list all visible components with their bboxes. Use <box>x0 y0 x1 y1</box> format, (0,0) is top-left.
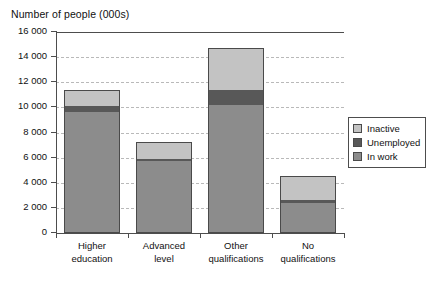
y-tick-label: 10 000 <box>18 100 47 112</box>
x-axis-label-line: Advanced <box>128 240 200 253</box>
y-tick-mark <box>51 81 56 82</box>
x-axis-label-line: qualifications <box>272 253 344 266</box>
bar-stack <box>280 32 336 233</box>
bar-stack <box>208 32 264 233</box>
stacked-bar-chart: Number of people (000s) 02 0004 0006 000… <box>0 0 438 293</box>
x-tick-mark <box>344 233 345 238</box>
legend-item[interactable]: Inactive <box>353 122 420 135</box>
bar-segment <box>280 176 336 199</box>
bar-segment <box>208 90 264 104</box>
bar-segment <box>280 200 336 204</box>
y-tick-mark <box>51 106 56 107</box>
y-tick-mark <box>51 56 56 57</box>
bar-segment <box>208 105 264 233</box>
y-axis-line <box>56 31 57 234</box>
x-axis-label: Highereducation <box>56 240 128 265</box>
y-tick-label: 12 000 <box>18 75 47 87</box>
bar-segment <box>208 48 264 90</box>
y-tick-mark <box>51 207 56 208</box>
y-tick-label: 4 000 <box>23 176 47 188</box>
x-axis-label-line: qualifications <box>200 253 272 266</box>
y-tick-label: 0 <box>42 226 47 238</box>
x-tick-mark <box>272 233 273 238</box>
bar-segment <box>136 142 192 159</box>
x-axis-label: Otherqualifications <box>200 240 272 265</box>
bar-segment <box>280 203 336 233</box>
legend-item[interactable]: In work <box>353 150 420 163</box>
x-tick-mark <box>200 233 201 238</box>
x-axis-label-line: Higher <box>56 240 128 253</box>
y-tick-label: 16 000 <box>18 25 47 37</box>
legend-item[interactable]: Unemployed <box>353 136 420 149</box>
x-axis-label-line: Other <box>200 240 272 253</box>
legend-item-label: Unemployed <box>367 137 420 148</box>
bar-segment <box>64 106 120 112</box>
x-tick-mark <box>56 233 57 238</box>
x-axis-label: Noqualifications <box>272 240 344 265</box>
bar-stack <box>136 32 192 233</box>
legend-item-label: In work <box>367 151 398 162</box>
y-tick-mark <box>51 132 56 133</box>
x-tick-mark <box>128 233 129 238</box>
bar-segment <box>136 159 192 162</box>
y-tick-label: 8 000 <box>23 126 47 138</box>
bar-segment <box>64 112 120 233</box>
legend-swatch-icon <box>353 152 362 161</box>
legend-swatch-icon <box>353 124 362 133</box>
y-tick-label: 6 000 <box>23 151 47 163</box>
chart-title: Number of people (000s) <box>11 8 129 21</box>
plot-area <box>56 32 344 233</box>
y-tick-mark <box>51 157 56 158</box>
y-tick-mark <box>51 182 56 183</box>
legend-item-label: Inactive <box>367 123 400 134</box>
x-axis-label-line: level <box>128 253 200 266</box>
chart-legend: InactiveUnemployedIn work <box>348 117 426 168</box>
x-axis-label-line: education <box>56 253 128 266</box>
bar-stack <box>64 32 120 233</box>
y-tick-label: 2 000 <box>23 201 47 213</box>
y-tick-mark <box>51 31 56 32</box>
legend-swatch-icon <box>353 138 362 147</box>
y-tick-label: 14 000 <box>18 50 47 62</box>
bar-segment <box>64 90 120 106</box>
bar-segment <box>136 161 192 233</box>
x-axis-label-line: No <box>272 240 344 253</box>
x-axis-label: Advancedlevel <box>128 240 200 265</box>
